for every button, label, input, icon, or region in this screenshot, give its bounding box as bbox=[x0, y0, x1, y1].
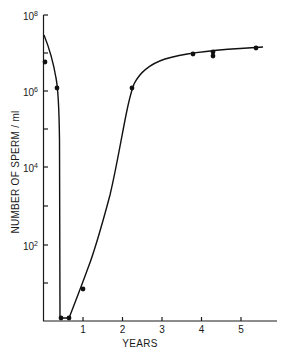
y-tick-base: 10 bbox=[23, 163, 34, 174]
x-axis bbox=[43, 317, 277, 321]
y-tick-label-1e8: 108 bbox=[12, 9, 38, 22]
y-tick-base: 10 bbox=[23, 11, 34, 22]
y-tick-exp: 8 bbox=[34, 10, 38, 17]
x-tick-label-3: 3 bbox=[156, 325, 168, 335]
y-tick-base: 10 bbox=[23, 87, 34, 98]
chart-canvas bbox=[0, 0, 285, 352]
x-axis-label: YEARS bbox=[122, 338, 157, 349]
data-points bbox=[43, 46, 259, 321]
x-tick-label-4: 4 bbox=[196, 325, 208, 335]
y-tick-exp: 6 bbox=[34, 86, 38, 93]
y-tick-exp: 4 bbox=[34, 162, 38, 169]
y-tick-base: 10 bbox=[23, 241, 34, 252]
y-tick-exp: 2 bbox=[34, 240, 38, 247]
x-tick-label-1: 1 bbox=[77, 325, 89, 335]
y-tick-label-1e6: 106 bbox=[12, 85, 38, 98]
y-axis-label: NUMBER OF SPERM / ml bbox=[10, 110, 21, 233]
x-tick-label-5: 5 bbox=[235, 325, 247, 335]
y-tick-label-1e2: 102 bbox=[12, 239, 38, 252]
fitted-curve bbox=[44, 35, 263, 318]
x-tick-label-2: 2 bbox=[117, 325, 129, 335]
